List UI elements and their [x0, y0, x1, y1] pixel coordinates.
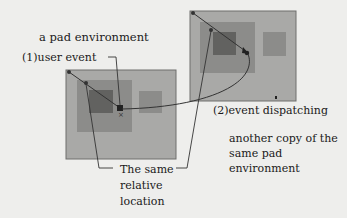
right-corner-marker — [191, 11, 195, 15]
right-pad-side-rect — [263, 32, 286, 56]
same-relative-location-label: The same relative location — [120, 162, 190, 210]
event-cross-icon: × — [118, 111, 124, 119]
left-pad-side-rect — [139, 91, 162, 113]
event-dispatching-label: (2)event dispatching — [213, 104, 328, 117]
another-copy-label: another copy of the same pad environment — [229, 131, 339, 176]
user-event-label: (1)user event — [22, 51, 96, 64]
left-corner-marker — [67, 70, 71, 74]
left-pad-dark-rect — [89, 90, 113, 113]
pad-environment-label: a pad environment — [39, 31, 149, 44]
left-pad-environment: × — [66, 70, 176, 159]
right-pad-environment — [190, 11, 296, 101]
dispatch-marker — [275, 96, 277, 99]
